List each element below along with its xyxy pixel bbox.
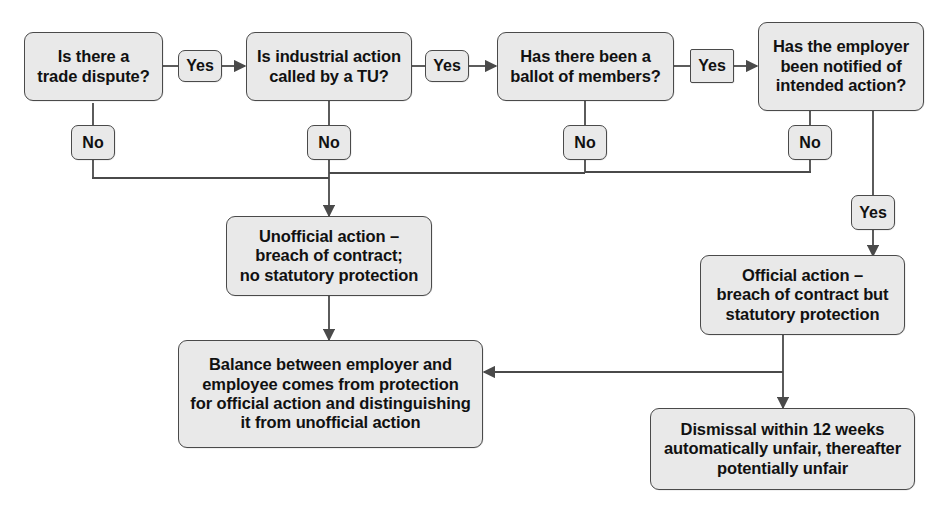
line-3: potentially unfair [717, 459, 848, 477]
line-2: automatically unfair, thereafter [664, 439, 901, 457]
node-outcome-dismissal[interactable]: Dismissal within 12 weeks automatically … [650, 408, 915, 490]
line-3: for official action and distinguishing [190, 394, 470, 412]
line-2: trade dispute? [37, 67, 149, 85]
line-1: Balance between employer and [209, 355, 452, 373]
line-1: Dismissal within 12 weeks [681, 420, 885, 438]
edge-label-yes-4-text: Yes [853, 204, 893, 222]
node-outcome-unofficial-action-text: Unofficial action – breach of contract; … [234, 227, 424, 285]
edge-label-yes-2[interactable]: Yes [425, 50, 469, 82]
node-question-called-by-tu-text: Is industrial action called by a TU? [251, 47, 407, 86]
flowchart-canvas: Is there a trade dispute? Is industrial … [0, 0, 945, 518]
node-question-called-by-tu[interactable]: Is industrial action called by a TU? [246, 32, 412, 101]
edge-label-no-1[interactable]: No [71, 125, 115, 160]
edge-label-yes-3[interactable]: Yes [690, 49, 734, 83]
node-question-trade-dispute-text: Is there a trade dispute? [31, 47, 155, 86]
line-2: been notified of [780, 57, 901, 75]
line-1: Official action – [742, 266, 863, 284]
edge-label-no-4-text: No [793, 134, 826, 152]
line-1: Is there a [58, 47, 129, 65]
line-2: breach of contract; [255, 246, 403, 264]
line-3: statutory protection [726, 305, 880, 323]
node-question-ballot-of-members-text: Has there been a ballot of members? [504, 47, 666, 86]
node-outcome-balance-text: Balance between employer and employee co… [184, 355, 476, 433]
node-question-trade-dispute[interactable]: Is there a trade dispute? [24, 32, 163, 101]
edge-label-no-3-text: No [568, 134, 601, 152]
edge-label-yes-1-text: Yes [180, 57, 220, 75]
edge-label-yes-1[interactable]: Yes [178, 50, 222, 82]
edge-label-no-4[interactable]: No [788, 125, 832, 160]
node-outcome-unofficial-action[interactable]: Unofficial action – breach of contract; … [226, 216, 432, 296]
edge-label-yes-3-text: Yes [692, 57, 732, 75]
line-1: Has the employer [773, 37, 909, 55]
edge-label-no-2-text: No [312, 134, 345, 152]
line-1: Unofficial action – [259, 227, 399, 245]
node-question-employer-notified[interactable]: Has the employer been notified of intend… [758, 22, 924, 111]
edge-label-yes-2-text: Yes [427, 57, 467, 75]
line-2: breach of contract but [717, 285, 889, 303]
node-outcome-dismissal-text: Dismissal within 12 weeks automatically … [658, 420, 907, 478]
line-1: Has there been a [520, 47, 650, 65]
line-2: employee comes from protection [202, 375, 458, 393]
edge-label-yes-4[interactable]: Yes [851, 195, 895, 230]
edge-label-no-3[interactable]: No [563, 125, 607, 160]
line-4: it from unofficial action [241, 413, 421, 431]
node-outcome-official-action-text: Official action – breach of contract but… [711, 266, 895, 324]
line-3: no statutory protection [240, 266, 418, 284]
node-question-employer-notified-text: Has the employer been notified of intend… [767, 37, 915, 95]
edge-label-no-1-text: No [76, 134, 109, 152]
node-outcome-balance[interactable]: Balance between employer and employee co… [178, 340, 483, 448]
line-3: intended action? [776, 76, 906, 94]
line-1: Is industrial action [257, 47, 401, 65]
node-outcome-official-action[interactable]: Official action – breach of contract but… [700, 255, 905, 335]
edge-label-no-2[interactable]: No [307, 125, 351, 160]
line-2: ballot of members? [510, 67, 660, 85]
line-2: called by a TU? [269, 67, 389, 85]
node-question-ballot-of-members[interactable]: Has there been a ballot of members? [497, 32, 674, 101]
